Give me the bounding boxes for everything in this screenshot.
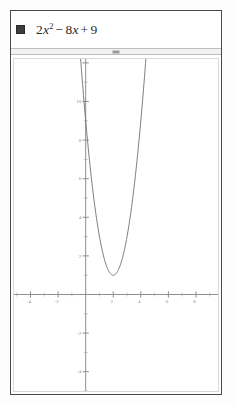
y-tick-label: -4 [77,369,82,374]
constant-term: 9 [90,22,97,37]
pane-splitter[interactable] [11,48,221,55]
x-tick-label: 8 [193,299,196,304]
x-tick-label: 4 [138,299,141,304]
graph-plot-area[interactable]: -4-22468108642-2-4 [13,58,219,392]
y-tick-label: 6 [79,176,82,181]
exponent-2: 2 [49,20,53,30]
y-tick-label: 10 [76,99,82,104]
operator-minus: − [54,22,66,37]
y-tick-label: 2 [79,254,82,259]
function-plot[interactable]: -4-22468108642-2-4 [14,59,218,391]
graph-window: 2x2−8x+9 -4-22468108642-2-4 [10,10,222,395]
x-tick-label: -2 [55,299,60,304]
x-tick-label: 2 [110,299,113,304]
y-tick-label: 8 [79,138,82,143]
equation-expression[interactable]: 2x2−8x+9 [36,23,97,37]
function-curve[interactable] [76,59,152,275]
x-tick-label: -4 [27,299,32,304]
y-tick-label: -2 [77,331,82,336]
variable-x-2: x [72,22,78,37]
y-tick-label: 4 [79,215,82,220]
operator-plus: + [79,22,91,37]
x-tick-label: 6 [166,299,169,304]
splitter-handle[interactable] [113,50,120,53]
coefficient-a: 2 [36,22,43,37]
function-color-swatch[interactable] [16,25,25,34]
equation-entry-panel[interactable]: 2x2−8x+9 [11,11,221,48]
